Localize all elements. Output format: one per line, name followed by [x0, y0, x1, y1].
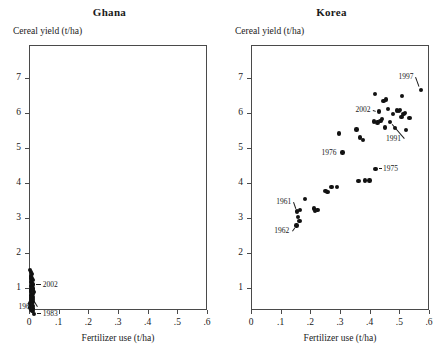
x-tick-mark	[177, 310, 178, 314]
x-tick-label: .4	[140, 317, 156, 327]
annotation-label: 1983	[43, 309, 58, 318]
y-tick-label: 6	[229, 107, 243, 117]
annotation-leader-line	[37, 313, 41, 314]
annotation-label: 1961	[276, 197, 291, 206]
x-tick-label: .2	[80, 317, 96, 327]
data-point	[373, 92, 377, 96]
y-tick-mark	[25, 183, 29, 184]
y-tick-mark	[247, 148, 251, 149]
data-point	[383, 125, 387, 129]
x-tick-label: .3	[110, 317, 126, 327]
y-tick-mark	[25, 218, 29, 219]
data-point	[377, 109, 381, 113]
annotation-leader-line	[379, 168, 382, 169]
x-tick-label: .6	[199, 317, 215, 327]
x-tick-label: .1	[51, 317, 67, 327]
data-point	[380, 117, 384, 121]
data-point	[384, 97, 388, 101]
data-point	[407, 116, 411, 120]
y-tick-mark	[247, 288, 251, 289]
x-tick-mark	[118, 310, 119, 314]
y-tick-label: 7	[229, 72, 243, 82]
data-point	[303, 197, 307, 201]
data-point	[367, 178, 371, 182]
data-point	[337, 131, 341, 135]
data-point	[315, 208, 319, 212]
panel-title: Ghana	[0, 6, 219, 18]
y-tick-mark	[25, 113, 29, 114]
y-tick-label: 5	[229, 142, 243, 152]
y-tick-mark	[247, 78, 251, 79]
plot-area	[251, 45, 429, 310]
x-tick-mark	[340, 310, 341, 314]
panel-korea: KoreaCereal yield (t/ha)12345670.1.2.3.4…	[222, 0, 438, 352]
data-point	[340, 150, 344, 154]
plot-area	[29, 45, 207, 310]
annotation-label: 1	[30, 286, 34, 295]
y-tick-label: 2	[229, 247, 243, 257]
y-tick-label: 1	[7, 282, 21, 292]
annotation-label: 1961	[19, 302, 34, 311]
y-axis-label: Cereal yield (t/ha)	[235, 26, 304, 36]
data-point	[32, 312, 36, 316]
x-tick-mark	[207, 310, 208, 314]
y-tick-mark	[247, 218, 251, 219]
y-tick-label: 3	[229, 212, 243, 222]
x-tick-label: 0	[243, 317, 259, 327]
data-point	[386, 107, 390, 111]
x-tick-mark	[251, 310, 252, 314]
y-tick-mark	[25, 78, 29, 79]
annotation-label: 2002	[43, 280, 58, 289]
y-tick-label: 5	[7, 142, 21, 152]
annotation-label: 2002	[355, 105, 370, 114]
x-tick-mark	[370, 310, 371, 314]
x-tick-mark	[148, 310, 149, 314]
x-tick-mark	[310, 310, 311, 314]
y-tick-label: 4	[229, 177, 243, 187]
x-tick-label: .4	[362, 317, 378, 327]
y-tick-label: 6	[7, 107, 21, 117]
data-point	[354, 127, 358, 131]
y-tick-label: 7	[7, 72, 21, 82]
y-tick-label: 1	[229, 282, 243, 292]
annotation-label: 1997	[398, 72, 413, 81]
x-tick-mark	[281, 310, 282, 314]
y-tick-mark	[25, 148, 29, 149]
figure-scatter-panels: GhanaCereal yield (t/ha)12345670.1.2.3.4…	[0, 0, 438, 352]
y-tick-label: 4	[7, 177, 21, 187]
x-tick-label: .6	[421, 317, 437, 327]
y-tick-mark	[247, 183, 251, 184]
y-tick-label: 2	[7, 247, 21, 257]
y-axis-label: Cereal yield (t/ha)	[13, 26, 82, 36]
x-tick-label: .2	[302, 317, 318, 327]
data-point	[373, 167, 377, 171]
panel-title: Korea	[222, 6, 438, 18]
data-point	[356, 179, 360, 183]
y-tick-mark	[25, 253, 29, 254]
x-axis-label: Fertilizer use (t/ha)	[251, 333, 429, 343]
x-tick-label: .5	[391, 317, 407, 327]
x-tick-label: .5	[169, 317, 185, 327]
x-tick-label: .3	[332, 317, 348, 327]
annotation-label: 1976	[322, 148, 337, 157]
y-tick-mark	[247, 253, 251, 254]
annotation-label: 1975	[383, 164, 398, 173]
x-tick-label: 0	[21, 317, 37, 327]
x-tick-mark	[59, 310, 60, 314]
panel-ghana: GhanaCereal yield (t/ha)12345670.1.2.3.4…	[0, 0, 219, 352]
annotation-label: 1991	[386, 134, 401, 143]
y-tick-mark	[247, 113, 251, 114]
x-axis-label: Fertilizer use (t/ha)	[29, 333, 207, 343]
x-tick-mark	[88, 310, 89, 314]
y-tick-label: 3	[7, 212, 21, 222]
data-point	[325, 190, 329, 194]
x-tick-label: .1	[273, 317, 289, 327]
x-tick-mark	[429, 310, 430, 314]
annotation-label: 1962	[274, 226, 289, 235]
x-tick-mark	[399, 310, 400, 314]
